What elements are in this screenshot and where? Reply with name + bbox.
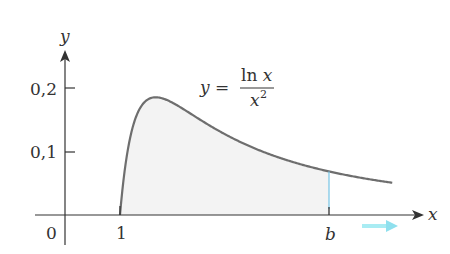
x-tick-label-1: 1 [116,223,127,243]
x-tick-label-0: 0 [46,223,57,243]
svg-text:=: = [215,77,229,97]
x-tick-label-b: b [325,224,336,244]
numerator: ln [241,65,263,85]
right-arrow-icon [362,220,398,232]
x-axis-label: x [428,204,438,224]
function-label: y = ln x x 2 [199,65,274,110]
svg-text:y: y [199,77,210,97]
svg-text:2: 2 [260,88,267,101]
svg-text:x: x [250,90,260,110]
svg-text:ln x: ln x [241,65,273,85]
y-tick-label-0.1: 0,1 [30,142,57,162]
y-axis-label: y [59,26,70,46]
shaded-area [120,97,329,215]
chart: y x 0,2 0,1 0 1 b y = ln x x 2 [0,0,450,254]
y-tick-label-0.2: 0,2 [30,79,57,99]
